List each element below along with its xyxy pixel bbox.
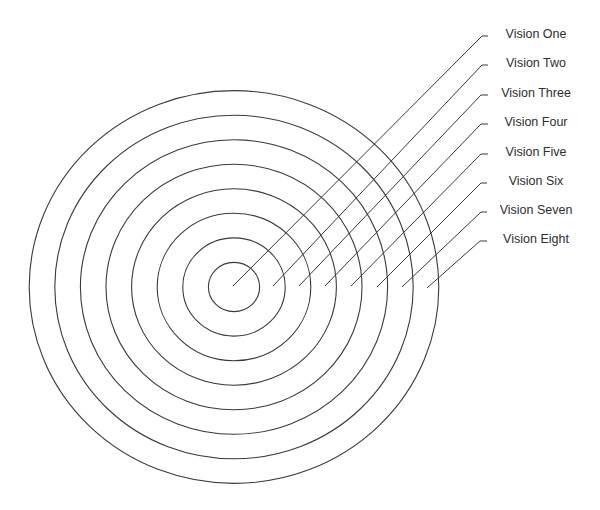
ring-vision-five (106, 164, 362, 410)
leader-line-vision-three (299, 95, 488, 286)
label-vision-eight: Vision Eight (503, 233, 569, 246)
ring-vision-six (80, 140, 387, 435)
label-vision-six: Vision Six (509, 175, 564, 188)
ring-vision-four (132, 189, 337, 385)
label-vision-three: Vision Three (501, 87, 571, 100)
ring-vision-one (208, 262, 259, 311)
label-vision-two: Vision Two (506, 57, 566, 70)
leader-line-vision-five (351, 154, 488, 286)
label-vision-five: Vision Five (506, 146, 567, 159)
leader-line-vision-eight (427, 241, 487, 288)
ring-vision-two (183, 238, 285, 336)
label-vision-seven: Vision Seven (500, 204, 573, 217)
label-vision-four: Vision Four (505, 116, 568, 129)
ring-vision-three (157, 213, 311, 360)
leader-lines-group (233, 36, 488, 288)
ring-vision-seven (55, 115, 413, 459)
label-vision-one: Vision One (506, 28, 567, 41)
concentric-vision-diagram (0, 0, 600, 510)
leader-line-vision-two (273, 65, 488, 286)
